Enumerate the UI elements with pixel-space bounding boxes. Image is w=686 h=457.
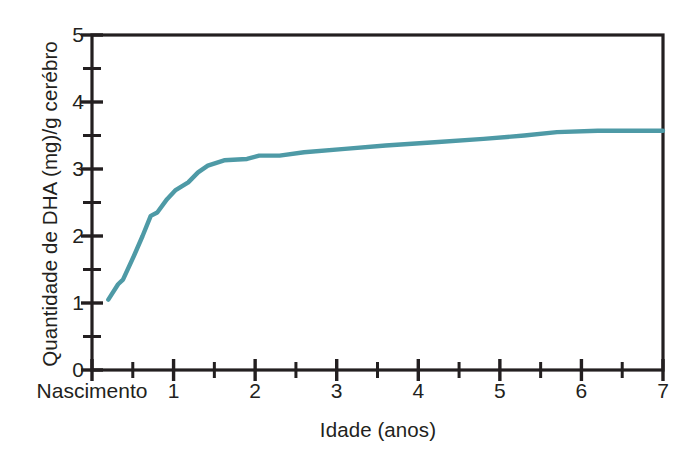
axis-frame bbox=[92, 35, 663, 370]
data-line-series bbox=[108, 131, 663, 300]
data-line-0 bbox=[108, 131, 663, 300]
axis-ticks bbox=[81, 35, 663, 381]
chart-figure: Quantidade de DHA (mg)/g cerébro Idade (… bbox=[0, 0, 686, 457]
plot-area bbox=[0, 0, 686, 457]
